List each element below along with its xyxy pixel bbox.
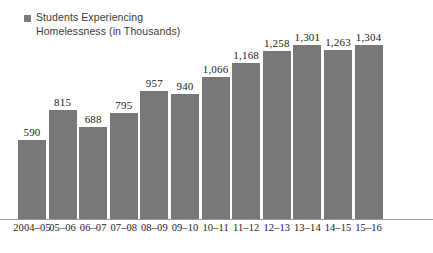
bar [49, 110, 77, 219]
bar-value-label: 688 [85, 113, 102, 125]
plot-area: 5908156887959579401,0661,1681,2581,3011,… [0, 0, 433, 219]
bar-value-label: 1,304 [356, 31, 382, 43]
x-axis-labels: 2004–0505–0606–0707–0808–0909–1010–1111–… [0, 222, 433, 242]
bar [202, 77, 230, 219]
x-axis-tick-label: 06–07 [80, 222, 107, 233]
bar [293, 45, 321, 219]
bar-group: 815 [49, 0, 77, 219]
bar-value-label: 1,066 [203, 63, 229, 75]
bar-value-label: 1,301 [295, 31, 321, 43]
x-axis-tick-label: 13–14 [294, 222, 321, 233]
bar [263, 51, 291, 219]
bar-group: 940 [171, 0, 199, 219]
bar [110, 113, 138, 219]
bar-value-label: 1,258 [264, 37, 290, 49]
x-axis-tick-label: 10–11 [202, 222, 228, 233]
bar-group: 795 [110, 0, 138, 219]
bar-group: 957 [140, 0, 168, 219]
bar [171, 94, 199, 219]
bar-value-label: 815 [54, 96, 71, 108]
bar-group: 590 [18, 0, 46, 219]
x-axis-tick-label: 07–08 [110, 222, 137, 233]
bar [232, 63, 260, 219]
x-axis-tick-label: 14–15 [325, 222, 352, 233]
x-axis-tick-label: 15–16 [355, 222, 382, 233]
bar-group: 1,258 [263, 0, 291, 219]
x-axis-tick-label: 09–10 [172, 222, 199, 233]
x-axis-tick-label: 2004–05 [13, 222, 50, 233]
bar-value-label: 940 [176, 80, 193, 92]
x-axis-tick-label: 11–12 [233, 222, 259, 233]
bar [140, 91, 168, 219]
bar-group: 688 [79, 0, 107, 219]
bar-group: 1,263 [324, 0, 352, 219]
bar-value-label: 957 [146, 77, 163, 89]
x-axis-tick-label: 08–09 [141, 222, 168, 233]
bar-group: 1,066 [202, 0, 230, 219]
bar-value-label: 590 [23, 126, 40, 138]
bar [79, 127, 107, 219]
bar-chart: Students Experiencing Homelessness (in T… [0, 0, 433, 253]
bar-value-label: 1,263 [325, 36, 351, 48]
axis-baseline [0, 219, 433, 220]
bar-group: 1,304 [355, 0, 383, 219]
bar-group: 1,168 [232, 0, 260, 219]
bar-value-label: 795 [115, 99, 132, 111]
x-axis-tick-label: 12–13 [263, 222, 290, 233]
bar-value-label: 1,168 [233, 49, 259, 61]
bar [18, 140, 46, 219]
x-axis-tick-label: 05–06 [49, 222, 76, 233]
bar [355, 45, 383, 219]
bar-group: 1,301 [293, 0, 321, 219]
bar [324, 50, 352, 219]
